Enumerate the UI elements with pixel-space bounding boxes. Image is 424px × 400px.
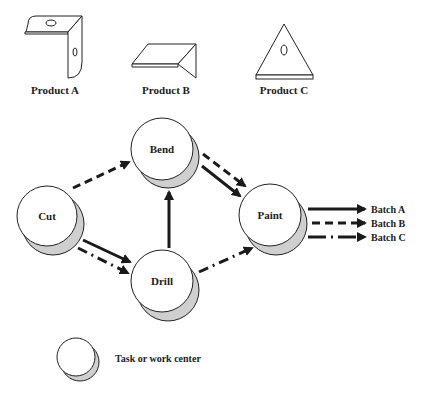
product-a-icon [25,16,82,78]
node-drill: Drill [131,250,199,321]
node-cut-label: Cut [38,210,56,222]
batch-c-label: Batch C [371,232,406,243]
node-drill-label: Drill [151,275,173,287]
node-paint: Paint [239,184,307,255]
process-flow-diagram: Product A Product B Product C [0,0,424,400]
node-bend: Bend [131,118,199,188]
edge-cut-drill-batch-a [83,240,130,262]
legend-label: Task or work center [115,353,201,364]
edge-cut-bend-batch-b [73,162,129,188]
product-c-icon [255,24,313,79]
edge-bend-paint-batch-a [202,166,240,196]
product-c-label: Product C [260,84,308,96]
product-a-label: Product A [31,84,79,96]
product-b-icon [132,44,196,78]
edges [73,154,365,273]
batch-a-label: Batch A [371,204,406,215]
node-paint-label: Paint [257,209,282,221]
node-cut: Cut [17,186,84,255]
legend: Task or work center [57,338,201,381]
batch-b-label: Batch B [371,218,406,229]
edge-drill-paint-batch-c [199,248,252,272]
edge-cut-drill-batch-c [78,248,128,273]
node-bend-label: Bend [150,143,174,155]
product-b-label: Product B [142,84,190,96]
